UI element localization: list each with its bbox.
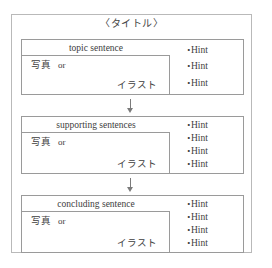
diagram-frame: 〈タイトル〉 topic sentence 写真or イラスト ・Hint ・H… bbox=[11, 14, 252, 253]
photo-text: 写真 bbox=[31, 216, 51, 226]
hint-bullet-icon: ・ bbox=[184, 198, 191, 211]
arrow-down-icon bbox=[21, 95, 244, 116]
photo-label: 写真or bbox=[31, 136, 66, 149]
hint-bullet-icon: ・ bbox=[184, 211, 191, 224]
or-text: or bbox=[58, 136, 66, 149]
hint-bullet-icon: ・ bbox=[184, 237, 191, 250]
illustration-label: イラスト bbox=[117, 237, 157, 250]
topic-hints: ・Hint ・Hint ・Hint bbox=[170, 40, 243, 94]
photo-text: 写真 bbox=[31, 60, 51, 70]
hint-label: Hint bbox=[191, 159, 208, 169]
block-topic-left: topic sentence 写真or イラスト bbox=[22, 40, 170, 94]
diagram-title: 〈タイトル〉 bbox=[12, 17, 251, 31]
hint-bullet-icon: ・ bbox=[184, 224, 191, 237]
topic-sentence-label: topic sentence bbox=[22, 40, 170, 55]
hint-bullet-icon: ・ bbox=[184, 60, 191, 73]
photo-label: 写真or bbox=[31, 59, 66, 72]
hint-label: Hint bbox=[191, 133, 208, 143]
concluding-sentence-label: concluding sentence bbox=[22, 196, 170, 211]
block-topic[interactable]: topic sentence 写真or イラスト ・Hint ・Hint ・Hi… bbox=[21, 39, 244, 95]
hint-bullet-icon: ・ bbox=[184, 44, 191, 57]
hint-label: Hint bbox=[191, 78, 208, 88]
photo-text: 写真 bbox=[31, 137, 51, 147]
photo-label: 写真or bbox=[31, 215, 66, 228]
hint-item[interactable]: ・Hint bbox=[184, 198, 243, 211]
hint-item[interactable]: ・Hint bbox=[184, 158, 243, 171]
topic-media-box[interactable]: 写真or イラスト bbox=[22, 55, 170, 94]
supporting-sentence-label: supporting sentences bbox=[22, 117, 170, 132]
hint-label: Hint bbox=[191, 225, 208, 235]
arrow-head bbox=[127, 108, 133, 113]
illustration-label: イラスト bbox=[117, 79, 157, 92]
hint-item[interactable]: ・Hint bbox=[184, 145, 243, 158]
concluding-hints: ・Hint ・Hint ・Hint ・Hint bbox=[170, 196, 243, 252]
or-text: or bbox=[58, 215, 66, 228]
hint-label: Hint bbox=[191, 212, 208, 222]
hint-bullet-icon: ・ bbox=[184, 119, 191, 132]
concluding-media-box[interactable]: 写真or イラスト bbox=[22, 211, 170, 252]
arrow-head bbox=[127, 187, 133, 192]
hint-label: Hint bbox=[191, 45, 208, 55]
hint-bullet-icon: ・ bbox=[184, 145, 191, 158]
hint-bullet-icon: ・ bbox=[184, 158, 191, 171]
block-supporting-left: supporting sentences 写真or イラスト bbox=[22, 117, 170, 173]
hint-item[interactable]: ・Hint bbox=[184, 119, 243, 132]
block-stack: topic sentence 写真or イラスト ・Hint ・Hint ・Hi… bbox=[21, 39, 244, 253]
supporting-media-box[interactable]: 写真or イラスト bbox=[22, 132, 170, 173]
or-text: or bbox=[58, 59, 66, 72]
hint-label: Hint bbox=[191, 146, 208, 156]
illustration-label: イラスト bbox=[117, 158, 157, 171]
hint-item[interactable]: ・Hint bbox=[184, 44, 243, 57]
hint-item[interactable]: ・Hint bbox=[184, 77, 243, 90]
block-concluding-left: concluding sentence 写真or イラスト bbox=[22, 196, 170, 252]
hint-bullet-icon: ・ bbox=[184, 77, 191, 90]
hint-bullet-icon: ・ bbox=[184, 132, 191, 145]
hint-item[interactable]: ・Hint bbox=[184, 132, 243, 145]
supporting-hints: ・Hint ・Hint ・Hint ・Hint bbox=[170, 117, 243, 173]
block-supporting[interactable]: supporting sentences 写真or イラスト ・Hint ・Hi… bbox=[21, 116, 244, 174]
hint-item[interactable]: ・Hint bbox=[184, 60, 243, 73]
arrow-down-icon bbox=[21, 174, 244, 195]
block-concluding[interactable]: concluding sentence 写真or イラスト ・Hint ・Hin… bbox=[21, 195, 244, 253]
hint-label: Hint bbox=[191, 199, 208, 209]
hint-item[interactable]: ・Hint bbox=[184, 237, 243, 250]
hint-label: Hint bbox=[191, 61, 208, 71]
hint-label: Hint bbox=[191, 238, 208, 248]
hint-item[interactable]: ・Hint bbox=[184, 211, 243, 224]
hint-item[interactable]: ・Hint bbox=[184, 224, 243, 237]
hint-label: Hint bbox=[191, 120, 208, 130]
